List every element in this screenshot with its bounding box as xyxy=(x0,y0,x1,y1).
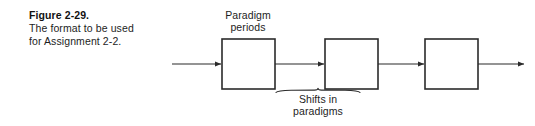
process-box-3 xyxy=(425,39,478,89)
label-shifts-in-paradigms-line-1: Shifts in xyxy=(273,93,363,105)
process-box-1 xyxy=(222,39,275,89)
process-box-2 xyxy=(325,39,378,89)
label-paradigm-periods-line-2: periods xyxy=(203,21,293,33)
label-shifts-in-paradigms-line-2: paradigms xyxy=(273,105,363,117)
label-shifts-in-paradigms: Shifts in paradigms xyxy=(273,93,363,117)
label-paradigm-periods-line-1: Paradigm xyxy=(203,9,293,21)
block-flow-diagram: Paradigm periods Shifts in paradigms xyxy=(0,0,535,126)
label-paradigm-periods: Paradigm periods xyxy=(203,9,293,33)
